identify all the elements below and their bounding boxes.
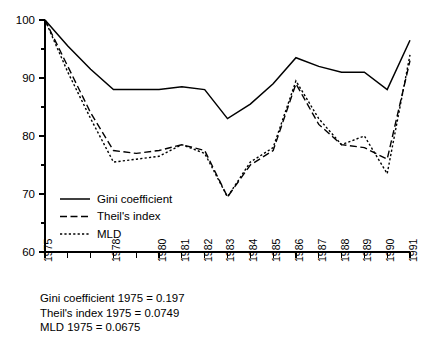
data-series-group (45, 20, 410, 197)
y-tick-label: 70 (22, 188, 35, 200)
y-tick-label: 100 (16, 14, 35, 26)
x-tick-label: 1989 (361, 238, 373, 262)
annotation-theil: Theil's index 1975 = 0.0749 (40, 306, 185, 321)
x-tick-label: 1991 (407, 238, 419, 262)
x-tick-label: 1984 (247, 238, 259, 262)
x-tick-label: 1990 (384, 238, 396, 262)
chart-figure: 60708090100 1975197819801981198219831984… (0, 0, 432, 339)
y-tick-label: 60 (22, 246, 35, 258)
y-axis-ticks (39, 20, 45, 252)
chart-annotations: Gini coefficient 1975 = 0.197 Theil's in… (40, 291, 185, 335)
series-line-theil-s-index (45, 20, 410, 197)
y-tick-label: 90 (22, 72, 35, 84)
chart-legend: Gini coefficientTheil's indexMLD (60, 193, 173, 240)
x-tick-label: 1988 (339, 238, 351, 262)
annotation-mld: MLD 1975 = 0.0675 (40, 320, 185, 335)
x-tick-label: 1983 (224, 238, 236, 262)
x-tick-label: 1985 (270, 238, 282, 262)
series-line-gini-coefficient (45, 20, 410, 119)
legend-label: Gini coefficient (97, 193, 173, 205)
x-tick-label: 1981 (179, 238, 191, 262)
x-tick-label: 1980 (156, 238, 168, 262)
x-tick-label: 1975 (42, 238, 54, 262)
y-tick-label: 80 (22, 130, 35, 142)
series-line-mld (45, 20, 410, 197)
x-tick-label: 1982 (202, 238, 214, 262)
x-tick-label: 1987 (316, 238, 328, 262)
y-axis-tick-labels: 60708090100 (16, 14, 35, 258)
annotation-gini: Gini coefficient 1975 = 0.197 (40, 291, 185, 306)
legend-label: MLD (97, 228, 121, 240)
legend-label: Theil's index (97, 210, 161, 222)
x-tick-label: 1978 (110, 238, 122, 262)
x-tick-label: 1986 (293, 238, 305, 262)
x-axis-tick-labels: 1975197819801981198219831984198519861987… (42, 238, 419, 262)
line-chart: 60708090100 1975197819801981198219831984… (0, 0, 432, 339)
